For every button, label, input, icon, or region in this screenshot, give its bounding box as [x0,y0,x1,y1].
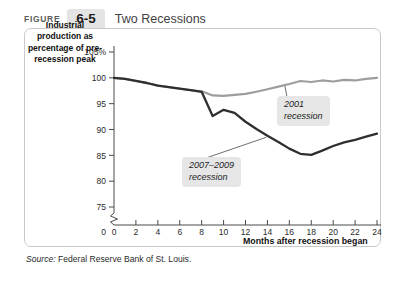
y-axis-origin-label: 0 [101,227,106,237]
y-tick-label: 90 [97,125,107,135]
annotation-2001-line2: recession [284,111,323,123]
series-line-2001 [114,78,377,96]
y-tick-label: 100 [92,73,106,83]
x-tick-label: 4 [155,227,160,237]
x-tick-label: 0 [112,227,117,237]
y-tick-label: 75 [97,202,107,212]
figure-container: FIGURE 6-5 Two Recessions Industrial pro… [0,0,411,283]
x-tick-label: 24 [372,227,382,237]
annotation-2001-line1: 2001 [284,99,323,111]
chart-axes: 7580859095100105%0024681012141618202224 [84,46,382,237]
annotation-2007-line2: recession [189,172,234,184]
y-tick-label: 95 [97,99,107,109]
source-label: Source: [26,254,56,264]
source-text: Federal Reserve Bank of St. Louis. [58,254,191,264]
series-line-2007-2009 [114,78,377,155]
y-tick-label: 105% [84,47,106,57]
source-note: Source: Federal Reserve Bank of St. Loui… [26,254,191,264]
x-axis-title: Months after recession began [243,236,368,246]
annotation-2007-2009-recession: 2007–2009 recession [182,157,241,187]
y-tick-label: 85 [97,151,107,161]
chart-series [114,78,377,155]
x-tick-label: 2 [134,227,139,237]
x-tick-label: 10 [219,227,229,237]
y-tick-label: 80 [97,176,107,186]
annotation-2001-recession: 2001 recession [277,96,330,126]
x-tick-label: 8 [199,227,204,237]
x-tick-label: 6 [177,227,182,237]
annotation-2007-line1: 2007–2009 [189,160,234,172]
